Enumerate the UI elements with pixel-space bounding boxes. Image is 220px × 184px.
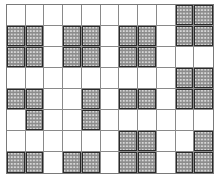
empty-cell [44,89,63,110]
empty-cell [82,5,101,26]
shaded-cell [119,152,138,173]
empty-cell [157,47,176,68]
empty-cell [157,68,176,89]
shaded-cell [63,47,82,68]
shaded-cell [82,110,101,131]
shaded-cell [138,26,157,47]
shaded-cell [82,47,101,68]
shaded-cell [176,68,195,89]
empty-cell [138,68,157,89]
empty-cell [82,131,101,152]
shaded-cell [82,152,101,173]
shaded-cell [119,131,138,152]
shaded-cell [176,5,195,26]
empty-cell [63,68,82,89]
shaded-cell [7,26,26,47]
shaded-cell [63,152,82,173]
empty-cell [157,26,176,47]
shaded-cell [7,89,26,110]
empty-cell [101,152,120,173]
shaded-cell [7,152,26,173]
shaded-cell [138,131,157,152]
shaded-cell [26,152,45,173]
empty-cell [63,89,82,110]
shaded-cell [138,47,157,68]
empty-cell [194,110,213,131]
empty-cell [63,110,82,131]
shaded-grid-diagram [6,4,214,174]
empty-cell [138,5,157,26]
shaded-cell [7,47,26,68]
empty-cell [44,110,63,131]
shaded-cell [82,26,101,47]
shaded-cell [138,152,157,173]
shaded-cell [194,26,213,47]
empty-cell [26,131,45,152]
empty-cell [26,68,45,89]
shaded-cell [176,152,195,173]
empty-cell [157,110,176,131]
empty-cell [7,110,26,131]
empty-cell [176,47,195,68]
shaded-cell [176,26,195,47]
shaded-cell [194,89,213,110]
empty-cell [63,5,82,26]
empty-cell [26,5,45,26]
empty-cell [157,5,176,26]
shaded-cell [176,89,195,110]
shaded-cell [119,47,138,68]
shaded-cell [26,110,45,131]
empty-cell [63,131,82,152]
shaded-cell [63,26,82,47]
shaded-cell [194,5,213,26]
shaded-cell [138,89,157,110]
shaded-cell [26,47,45,68]
empty-cell [101,131,120,152]
empty-cell [119,5,138,26]
empty-cell [157,152,176,173]
empty-cell [157,131,176,152]
empty-cell [119,68,138,89]
empty-cell [138,110,157,131]
empty-cell [44,152,63,173]
empty-cell [176,131,195,152]
empty-cell [44,47,63,68]
shaded-cell [26,89,45,110]
empty-cell [194,47,213,68]
shaded-cell [82,89,101,110]
empty-cell [101,26,120,47]
shaded-cell [119,89,138,110]
empty-cell [119,110,138,131]
empty-cell [176,110,195,131]
empty-cell [101,68,120,89]
shaded-cell [26,26,45,47]
empty-cell [82,68,101,89]
empty-cell [7,5,26,26]
shaded-cell [194,68,213,89]
shaded-cell [119,26,138,47]
empty-cell [44,5,63,26]
empty-cell [7,131,26,152]
empty-cell [157,89,176,110]
empty-cell [44,68,63,89]
empty-cell [101,47,120,68]
shaded-cell [194,152,213,173]
empty-cell [44,131,63,152]
empty-cell [101,89,120,110]
empty-cell [44,26,63,47]
empty-cell [101,110,120,131]
empty-cell [7,68,26,89]
empty-cell [101,5,120,26]
shaded-cell [194,131,213,152]
